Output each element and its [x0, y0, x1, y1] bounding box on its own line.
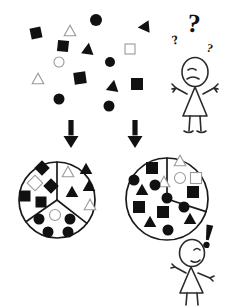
square-filled	[20, 191, 31, 202]
circle-outline	[54, 57, 64, 67]
left-grouping-three-sectors	[19, 160, 96, 238]
circle-filled	[150, 180, 161, 191]
circle-filled	[34, 214, 45, 225]
square-filled	[73, 71, 87, 85]
circle-filled	[105, 57, 115, 67]
circle-filled	[162, 193, 173, 204]
leg-left	[189, 116, 190, 131]
circle-filled	[129, 175, 140, 186]
circle-filled	[65, 214, 76, 225]
square-filled	[29, 26, 42, 39]
square-filled	[146, 162, 158, 174]
circle-filled	[104, 101, 115, 112]
leg-left	[186, 293, 187, 305]
square-outline	[125, 44, 135, 54]
circle-filled	[90, 14, 102, 26]
circle-filled	[163, 225, 174, 236]
circle-filled	[43, 227, 54, 238]
leg-right	[200, 116, 201, 131]
square-outline	[191, 173, 202, 184]
square-filled	[187, 186, 199, 198]
shape-sorting-illustration: ???	[0, 0, 229, 308]
leg-right	[197, 293, 198, 305]
square-filled	[36, 197, 47, 208]
circle-outline	[175, 173, 186, 184]
square-filled	[131, 78, 143, 90]
circle-outline	[50, 210, 61, 221]
illustration-canvas: ???	[0, 0, 229, 308]
square-filled	[57, 40, 69, 52]
circle-filled	[179, 202, 190, 213]
circle-filled	[54, 94, 65, 105]
circle-filled	[63, 227, 74, 238]
square-filled	[157, 206, 169, 218]
square-filled	[133, 201, 145, 213]
